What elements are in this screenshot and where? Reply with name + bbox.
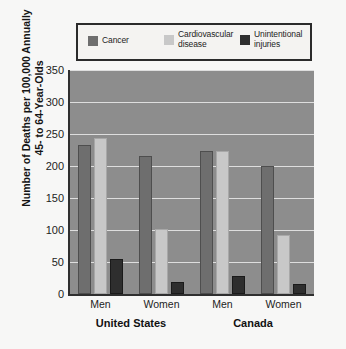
legend-swatch-cardiovascular-disease [164, 35, 174, 45]
legend-entry-unintentional-injuries: Unintentional injuries [240, 30, 302, 49]
legend-items: Cancer Cardiovascular disease Unintentio… [78, 25, 310, 59]
bar [293, 284, 306, 294]
x-axis-tick-label: Men [90, 298, 110, 310]
y-axis-tick-label: 350 [32, 64, 64, 76]
chart-legend: Cancer Cardiovascular disease Unintentio… [76, 23, 312, 61]
x-axis-tick-label: Women [144, 298, 180, 310]
gridline [70, 102, 314, 103]
bar [232, 276, 245, 294]
legend-label-cardiovascular-disease: Cardiovascular disease [178, 30, 233, 49]
bar [216, 151, 229, 294]
x-axis-group-label: United States [96, 317, 166, 329]
bar [94, 138, 107, 294]
x-axis-group-label: Canada [233, 317, 273, 329]
y-axis-ticks: 350300250200150100500 [30, 70, 64, 296]
bar [277, 235, 290, 294]
y-axis-tick-label: 50 [32, 256, 64, 268]
plot-area [68, 70, 314, 296]
bar [200, 151, 213, 294]
y-axis-tick-label: 250 [32, 128, 64, 140]
gridline [70, 134, 314, 135]
bar [261, 166, 274, 294]
x-axis-tick-label: Women [266, 298, 302, 310]
x-axis-ticks: MenWomenMenWomen [70, 298, 314, 314]
legend-swatch-cancer [88, 36, 98, 46]
gridline [70, 70, 314, 71]
bar [155, 229, 168, 294]
y-axis-tick-label: 100 [32, 224, 64, 236]
chart-figure: Cancer Cardiovascular disease Unintentio… [0, 0, 346, 349]
legend-entry-cancer: Cancer [88, 36, 129, 46]
bar [78, 145, 91, 294]
y-axis-tick-label: 300 [32, 96, 64, 108]
legend-label-cancer: Cancer [102, 36, 129, 46]
bar [139, 156, 152, 294]
legend-swatch-unintentional-injuries [240, 35, 250, 45]
bar [110, 259, 123, 294]
y-axis-tick-label: 0 [32, 288, 64, 300]
x-axis-group-labels: United StatesCanada [70, 317, 314, 335]
x-axis-tick-label: Men [212, 298, 232, 310]
y-axis-tick-label: 150 [32, 192, 64, 204]
legend-label-unintentional-injuries: Unintentional injuries [254, 30, 302, 49]
y-axis-tick-label: 200 [32, 160, 64, 172]
bar [171, 282, 184, 294]
legend-entry-cardiovascular-disease: Cardiovascular disease [164, 30, 233, 49]
